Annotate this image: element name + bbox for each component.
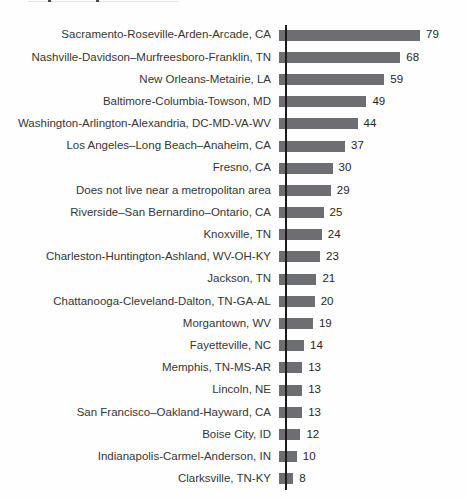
category-label: Charleston-Huntington-Ashland, WV-OH-KY	[0, 251, 279, 263]
bar	[279, 118, 358, 129]
bar-row: Memphis, TN-MS-AR13	[0, 357, 467, 379]
bar	[279, 385, 302, 396]
value-label: 68	[406, 52, 419, 64]
value-label: 12	[306, 429, 319, 441]
bar	[279, 74, 384, 85]
bar	[279, 163, 333, 174]
value-label: 24	[328, 229, 341, 241]
value-label: 30	[339, 162, 352, 174]
category-label: Fayetteville, NC	[0, 340, 279, 352]
bar	[279, 407, 302, 418]
value-label: 19	[319, 318, 332, 330]
bar-row: Baltimore-Columbia-Towson, MD49	[0, 91, 467, 113]
bar-row: Indianapolis-Carmel-Anderson, IN10	[0, 446, 467, 468]
bar	[279, 362, 302, 373]
bar	[279, 429, 300, 440]
value-label: 49	[372, 96, 385, 108]
bar-row: Morgantown, WV19	[0, 312, 467, 334]
bar-row: San Francisco–Oakland-Hayward, CA13	[0, 401, 467, 423]
value-label: 29	[337, 185, 350, 197]
bar	[279, 30, 420, 41]
bar-row: Does not live near a metropolitan area29	[0, 179, 467, 201]
category-label: Indianapolis-Carmel-Anderson, IN	[0, 451, 279, 463]
value-label: 21	[322, 273, 335, 285]
bar-row: Los Angeles–Long Beach–Anaheim, CA37	[0, 135, 467, 157]
category-label: Washington-Arlington-Alexandria, DC-MD-V…	[0, 118, 279, 130]
bar	[279, 96, 366, 107]
bar-row: Lincoln, NE13	[0, 379, 467, 401]
value-label: 79	[426, 29, 439, 41]
value-label: 37	[351, 140, 364, 152]
category-label: Knoxville, TN	[0, 229, 279, 241]
category-label: New Orleans-Metairie, LA	[0, 74, 279, 86]
value-label: 44	[364, 118, 377, 130]
value-label: 8	[299, 473, 305, 485]
category-label: Nashville-Davidson–Murfreesboro-Franklin…	[0, 52, 279, 64]
bar	[279, 141, 345, 152]
category-label: Los Angeles–Long Beach–Anaheim, CA	[0, 140, 279, 152]
cropped-text-fragment	[28, 0, 178, 3]
category-label: Chattanooga-Cleveland-Dalton, TN-GA-AL	[0, 296, 279, 308]
bar	[279, 52, 400, 63]
category-label: San Francisco–Oakland-Hayward, CA	[0, 407, 279, 419]
value-label: 10	[303, 451, 316, 463]
bar-row: Jackson, TN21	[0, 268, 467, 290]
value-label: 59	[390, 74, 403, 86]
bar-row: Knoxville, TN24	[0, 224, 467, 246]
value-label: 13	[308, 407, 321, 419]
chart-rows: Sacramento-Roseville-Arden-Arcade, CA79N…	[0, 24, 467, 490]
bar-chart: Sacramento-Roseville-Arden-Arcade, CA79N…	[0, 0, 467, 499]
value-label: 23	[326, 251, 339, 263]
category-label: Morgantown, WV	[0, 318, 279, 330]
bar-row: Riverside–San Bernardino–Ontario, CA25	[0, 202, 467, 224]
value-label: 13	[308, 384, 321, 396]
bar-row: Chattanooga-Cleveland-Dalton, TN-GA-AL20	[0, 290, 467, 312]
bar-row: Washington-Arlington-Alexandria, DC-MD-V…	[0, 113, 467, 135]
category-label: Baltimore-Columbia-Towson, MD	[0, 96, 279, 108]
category-label: Jackson, TN	[0, 273, 279, 285]
category-label: Does not live near a metropolitan area	[0, 185, 279, 197]
category-label: Sacramento-Roseville-Arden-Arcade, CA	[0, 29, 279, 41]
category-label: Memphis, TN-MS-AR	[0, 362, 279, 374]
category-label: Riverside–San Bernardino–Ontario, CA	[0, 207, 279, 219]
value-label: 14	[310, 340, 323, 352]
bar-row: Fresno, CA30	[0, 157, 467, 179]
bar-row: Clarksville, TN-KY8	[0, 468, 467, 490]
bar	[279, 451, 297, 462]
category-label: Fresno, CA	[0, 162, 279, 174]
value-label: 20	[321, 296, 334, 308]
bar-row: Boise City, ID12	[0, 423, 467, 445]
category-label: Boise City, ID	[0, 429, 279, 441]
value-label: 25	[330, 207, 343, 219]
bar-row: Charleston-Huntington-Ashland, WV-OH-KY2…	[0, 246, 467, 268]
bar-row: Sacramento-Roseville-Arden-Arcade, CA79	[0, 24, 467, 46]
bar-row: New Orleans-Metairie, LA59	[0, 68, 467, 90]
category-label: Clarksville, TN-KY	[0, 473, 279, 485]
bar	[279, 340, 304, 351]
category-label: Lincoln, NE	[0, 384, 279, 396]
baseline-axis	[285, 25, 287, 490]
bar-row: Fayetteville, NC14	[0, 335, 467, 357]
bar-row: Nashville-Davidson–Murfreesboro-Franklin…	[0, 46, 467, 68]
value-label: 13	[308, 362, 321, 374]
